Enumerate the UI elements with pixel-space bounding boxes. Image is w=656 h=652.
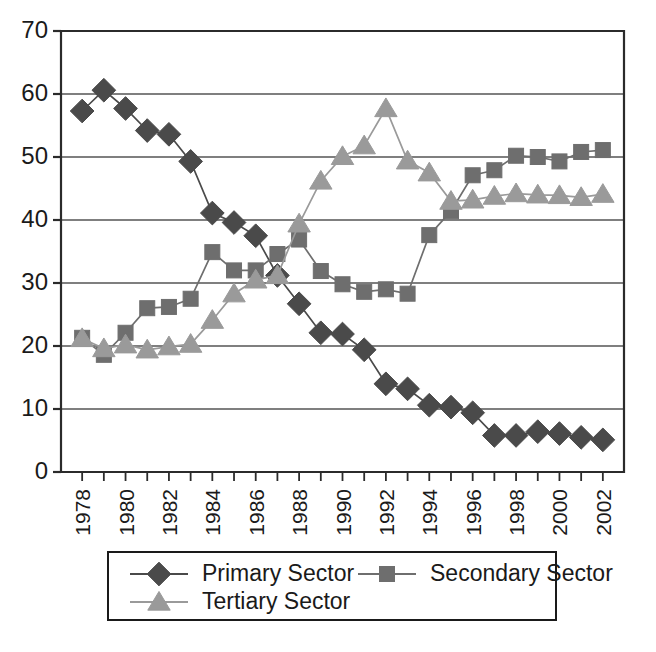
legend-label-1: Secondary Sector [430, 560, 613, 586]
datapoint-1985-2 [223, 283, 245, 302]
xtick-label-1990: 1990 [332, 489, 355, 536]
ytick-label-10: 10 [21, 394, 48, 421]
datapoint-2001-1 [574, 144, 589, 159]
ytick-label-50: 50 [21, 142, 48, 169]
datapoint-1984-1 [205, 245, 220, 260]
ytick-label-20: 20 [21, 331, 48, 358]
datapoint-1985-1 [227, 263, 242, 278]
datapoint-1984-2 [201, 310, 223, 329]
datapoint-1999-0 [526, 420, 550, 444]
series-line-2 [82, 108, 603, 349]
datapoint-2000-1 [552, 154, 567, 169]
xtick-label-1982: 1982 [158, 489, 181, 536]
ytick-label-30: 30 [21, 268, 48, 295]
datapoint-1988-0 [287, 292, 311, 316]
datapoint-2000-0 [548, 422, 572, 446]
xtick-label-1994: 1994 [418, 489, 441, 536]
datapoint-1983-0 [179, 150, 203, 174]
xaxis-group: 1978198019821984198619881990199219941996… [71, 472, 615, 536]
series-line-0 [82, 90, 603, 440]
series-primary-sector [70, 78, 614, 451]
square-marker-icon [380, 567, 395, 582]
datapoint-1995-0 [439, 395, 463, 419]
datapoint-2002-2 [592, 184, 614, 203]
xtick-label-1986: 1986 [245, 489, 268, 536]
datapoint-1990-0 [331, 322, 355, 346]
datapoint-1992-0 [374, 372, 398, 396]
datapoint-1987-1 [270, 247, 285, 262]
datapoint-1998-2 [505, 183, 527, 202]
chart-container: 0102030405060701978198019821984198619881… [0, 0, 656, 652]
datapoint-1997-1 [487, 163, 502, 178]
datapoint-1989-1 [313, 264, 328, 279]
datapoint-2002-1 [595, 143, 610, 158]
datapoint-1991-0 [352, 338, 376, 362]
datapoint-1991-1 [357, 284, 372, 299]
datapoint-1982-0 [157, 122, 181, 146]
plot-frame [61, 31, 624, 472]
datapoint-1993-1 [400, 286, 415, 301]
datapoint-1983-1 [183, 291, 198, 306]
datapoint-1990-2 [331, 146, 353, 165]
datapoint-2002-0 [591, 428, 615, 452]
legend-label-0: Primary Sector [202, 560, 354, 586]
xtick-label-1984: 1984 [201, 489, 224, 536]
ytick-label-60: 60 [21, 79, 48, 106]
xtick-label-1980: 1980 [115, 489, 138, 536]
datapoint-1986-0 [244, 224, 268, 248]
datapoint-1989-0 [309, 321, 333, 345]
datapoint-1981-1 [140, 301, 155, 316]
datapoint-2000-2 [548, 185, 570, 204]
datapoint-1984-0 [200, 201, 224, 225]
datapoint-1994-0 [417, 393, 441, 417]
datapoint-1992-1 [378, 282, 393, 297]
datapoint-2001-0 [569, 425, 593, 449]
line-chart: 0102030405060701978198019821984198619881… [0, 0, 656, 652]
datapoint-1993-0 [396, 377, 420, 401]
datapoint-1991-2 [353, 135, 375, 154]
xtick-label-1998: 1998 [505, 489, 528, 536]
xtick-label-2002: 2002 [592, 489, 615, 536]
datapoint-1990-1 [335, 277, 350, 292]
datapoint-1998-1 [509, 148, 524, 163]
datapoint-1999-1 [530, 150, 545, 165]
xtick-label-1988: 1988 [288, 489, 311, 536]
xtick-label-1996: 1996 [462, 489, 485, 536]
datapoint-1998-0 [504, 424, 528, 448]
legend: Primary SectorSecondary SectorTertiary S… [108, 552, 613, 620]
xtick-label-2000: 2000 [548, 489, 571, 536]
datapoint-1992-2 [375, 98, 397, 117]
ytick-label-40: 40 [21, 205, 48, 232]
datapoint-1985-0 [222, 211, 246, 235]
datapoint-1994-2 [418, 162, 440, 181]
datapoint-1994-1 [422, 228, 437, 243]
ytick-label-0: 0 [35, 457, 48, 484]
ytick-label-70: 70 [21, 16, 48, 43]
datapoint-1993-2 [396, 150, 418, 169]
datapoint-1996-1 [465, 168, 480, 183]
legend-label-2: Tertiary Sector [202, 588, 351, 614]
xtick-label-1992: 1992 [375, 489, 398, 536]
datapoint-1988-2 [288, 213, 310, 232]
xtick-label-1978: 1978 [71, 489, 94, 536]
datapoint-1982-1 [161, 299, 176, 314]
